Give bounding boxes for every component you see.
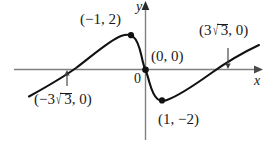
x-axis-label: x xyxy=(254,74,260,88)
radical-sign-left: √3 xyxy=(55,92,72,107)
label-local-min: (1, −2) xyxy=(158,112,199,127)
right-intercept-arrow-icon xyxy=(225,64,230,70)
radical-glyph-left: √ xyxy=(56,92,61,107)
label-right-intercept-prefix: (3 xyxy=(199,22,212,38)
label-local-max: (−1, 2) xyxy=(80,12,121,27)
y-axis-arrow-icon xyxy=(142,1,150,10)
radical-overbar-right xyxy=(217,24,229,25)
label-left-intercept-prefix: (−3 xyxy=(34,91,55,107)
label-left-intercept-suffix: , 0) xyxy=(72,91,92,107)
label-left-intercept: (−3√3, 0) xyxy=(34,92,92,107)
origin-label: 0 xyxy=(134,72,141,86)
label-origin-point: (0, 0) xyxy=(151,49,184,64)
radical-overbar-left xyxy=(60,93,72,94)
point-local-min xyxy=(159,97,165,103)
y-axis-label: y xyxy=(136,0,142,14)
point-origin xyxy=(142,67,149,74)
label-right-intercept-suffix: , 0) xyxy=(228,22,248,38)
label-right-intercept: (3√3, 0) xyxy=(199,23,248,38)
radical-glyph-right: √ xyxy=(213,23,218,38)
point-local-max xyxy=(128,32,134,38)
radical-sign-right: √3 xyxy=(212,23,229,38)
